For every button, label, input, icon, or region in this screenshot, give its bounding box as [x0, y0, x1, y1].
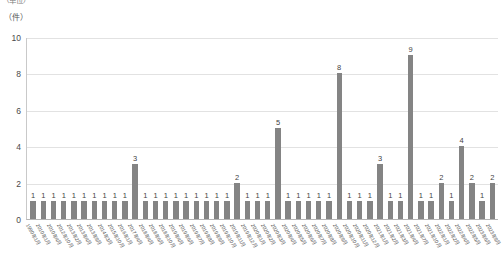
bar-rect[interactable] [30, 201, 35, 219]
bar-item[interactable]: 9 [406, 38, 416, 219]
bar-item[interactable]: 1 [344, 38, 354, 219]
bar-item[interactable]: 1 [28, 38, 38, 219]
bar-item[interactable]: 1 [426, 38, 436, 219]
bar-item[interactable]: 1 [181, 38, 191, 219]
bar-item[interactable]: 1 [89, 38, 99, 219]
bar-item[interactable]: 1 [355, 38, 365, 219]
bar-item[interactable]: 1 [38, 38, 48, 219]
bar-value-label: 2 [439, 174, 443, 182]
bar-item[interactable]: 1 [212, 38, 222, 219]
bar-rect[interactable] [449, 201, 454, 219]
bar-item[interactable]: 2 [436, 38, 446, 219]
bar-item[interactable]: 1 [252, 38, 262, 219]
bar-rect[interactable] [92, 201, 97, 219]
bar-item[interactable]: 1 [69, 38, 79, 219]
bar-rect[interactable] [418, 201, 423, 219]
bar-item[interactable]: 1 [191, 38, 201, 219]
bar-rect[interactable] [285, 201, 290, 219]
bar-item[interactable]: 1 [446, 38, 456, 219]
bar-rect[interactable] [479, 201, 484, 219]
bar-item[interactable]: 1 [263, 38, 273, 219]
bar-rect[interactable] [337, 73, 342, 219]
bar-rect[interactable] [71, 201, 76, 219]
bar-item[interactable]: 5 [273, 38, 283, 219]
bar-item[interactable]: 8 [334, 38, 344, 219]
bar-item[interactable]: 1 [150, 38, 160, 219]
bar-rect[interactable] [224, 201, 229, 219]
bar-item[interactable]: 1 [59, 38, 69, 219]
bar-rect[interactable] [245, 201, 250, 219]
bar-rect[interactable] [81, 201, 86, 219]
bar-item[interactable]: 1 [120, 38, 130, 219]
bar-rect[interactable] [214, 201, 219, 219]
bar-rect[interactable] [122, 201, 127, 219]
bar-item[interactable]: 1 [395, 38, 405, 219]
bar-rect[interactable] [490, 183, 495, 219]
bar-item[interactable]: 1 [283, 38, 293, 219]
bar-item[interactable]: 2 [467, 38, 477, 219]
bar-item[interactable]: 1 [79, 38, 89, 219]
bar-item[interactable]: 1 [303, 38, 313, 219]
bar-rect[interactable] [183, 201, 188, 219]
bar-rect[interactable] [112, 201, 117, 219]
bar-rect[interactable] [194, 201, 199, 219]
bar-rect[interactable] [255, 201, 260, 219]
bar-item[interactable]: 1 [161, 38, 171, 219]
bar-rect[interactable] [51, 201, 56, 219]
bar-item[interactable]: 2 [487, 38, 497, 219]
bar-rect[interactable] [316, 201, 321, 219]
bar-rect[interactable] [306, 201, 311, 219]
bar-rect[interactable] [326, 201, 331, 219]
bar-rect[interactable] [398, 201, 403, 219]
bar-value-label: 1 [204, 192, 208, 200]
bar-rect[interactable] [173, 201, 178, 219]
bar-rect[interactable] [439, 183, 444, 219]
bar-rect[interactable] [357, 201, 362, 219]
bar-value-label: 1 [215, 192, 219, 200]
bar-rect[interactable] [347, 201, 352, 219]
bar-rect[interactable] [163, 201, 168, 219]
bar-rect[interactable] [459, 146, 464, 219]
bar-item[interactable]: 1 [477, 38, 487, 219]
bar-item[interactable]: 2 [232, 38, 242, 219]
bar-value-label: 1 [72, 192, 76, 200]
bar-item[interactable]: 1 [222, 38, 232, 219]
bar-rect[interactable] [132, 164, 137, 219]
bar-item[interactable]: 3 [130, 38, 140, 219]
bar-rect[interactable] [102, 201, 107, 219]
bar-item[interactable]: 1 [416, 38, 426, 219]
bar-item[interactable]: 1 [242, 38, 252, 219]
bar-item[interactable]: 1 [293, 38, 303, 219]
bar-item[interactable]: 4 [457, 38, 467, 219]
bar-rect[interactable] [265, 201, 270, 219]
bar-rect[interactable] [204, 201, 209, 219]
bar-rect[interactable] [428, 201, 433, 219]
bar-item[interactable]: 1 [171, 38, 181, 219]
bar-rect[interactable] [469, 183, 474, 219]
bar-rect[interactable] [367, 201, 372, 219]
bar-rect[interactable] [408, 55, 413, 219]
bar-item[interactable]: 1 [48, 38, 58, 219]
bar-item[interactable]: 1 [314, 38, 324, 219]
bar-item[interactable]: 1 [99, 38, 109, 219]
bar-rect[interactable] [377, 164, 382, 219]
bar-item[interactable]: 1 [385, 38, 395, 219]
bar-item[interactable]: 3 [375, 38, 385, 219]
bar-item[interactable]: 1 [140, 38, 150, 219]
bar-rect[interactable] [234, 183, 239, 219]
bar-value-label: 1 [123, 192, 127, 200]
bar-value-label: 5 [276, 119, 280, 127]
bar-item[interactable]: 1 [110, 38, 120, 219]
bar-item[interactable]: 1 [201, 38, 211, 219]
bar-rect[interactable] [41, 201, 46, 219]
bar-rect[interactable] [153, 201, 158, 219]
bar-value-label: 3 [378, 155, 382, 163]
bar-item[interactable]: 1 [324, 38, 334, 219]
bar-value-label: 1 [51, 192, 55, 200]
bar-rect[interactable] [143, 201, 148, 219]
bar-rect[interactable] [388, 201, 393, 219]
bar-item[interactable]: 1 [365, 38, 375, 219]
bar-rect[interactable] [296, 201, 301, 219]
bar-rect[interactable] [61, 201, 66, 219]
bar-rect[interactable] [275, 128, 280, 219]
